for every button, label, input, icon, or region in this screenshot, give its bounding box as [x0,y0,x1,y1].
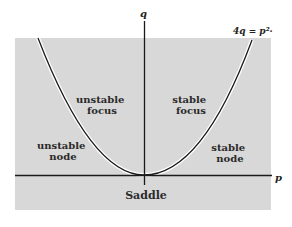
q-axis-label: q [140,8,147,19]
stability-diagram: q p 4q = p²· unstable focus stable focus… [0,0,292,227]
region-label-stable-focus: stable focus [172,94,209,116]
curve-label: 4q = p²· [233,26,273,36]
region-label-saddle: Saddle [125,189,167,202]
region-label-stable-node: stable node [211,142,248,164]
shaded-region [15,38,271,210]
p-axis-label: p [275,172,282,183]
